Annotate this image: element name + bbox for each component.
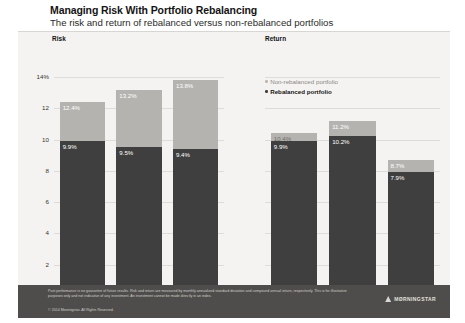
bar-value-label: 9.5% [119,149,133,156]
bar-group[interactable]: 10.4%9.9% [271,133,318,296]
panel-risk: Risk 02468101214%Jan 1970–Dec 201312.4%9… [18,32,232,318]
y-axis-tick-label: 8 [46,167,49,174]
legend-label-rebalanced: Rebalanced portfolio [270,88,332,96]
bar-value-label: 13.2% [119,92,136,99]
bar-segment-non-rebalanced[interactable]: 11.2% [329,121,376,137]
gridline [265,108,440,109]
bar-value-label: 8.7% [391,162,405,169]
legend: Non-rebalanced portfolio Rebalanced port… [265,77,415,97]
legend-swatch-icon [265,90,268,93]
panel-return: Return Jan 1970–Dec 201310.4%9.9%Jan 198… [232,32,450,318]
bar-segment-non-rebalanced[interactable]: 10.4% [271,133,318,141]
bar-value-label: 10.2% [332,138,349,145]
bar-value-label: 9.9% [274,143,288,150]
y-axis-tick-label: 14% [37,73,49,80]
figure-footer: Past performance is no guarantee of futu… [18,285,450,318]
bar-group[interactable]: 12.4%9.9% [60,102,105,296]
bar-segment-non-rebalanced[interactable]: 8.7% [388,160,435,173]
page-title: Managing Risk With Portfolio Rebalancing [50,4,450,16]
legend-label-non-rebalanced: Non-rebalanced portfolio [270,78,338,86]
y-axis-tick-label: 10 [42,136,49,143]
bar-segment-rebalanced[interactable]: 9.9% [60,141,105,296]
bar-value-label: 13.8% [176,82,193,89]
bar-value-label: 9.9% [63,143,77,150]
brand-mark-icon [385,296,391,302]
plot-area-risk: 02468101214%Jan 1970–Dec 201312.4%9.9%Ja… [54,77,224,296]
y-axis-tick-label: 2 [46,261,49,268]
bar-group[interactable]: 13.2%9.5% [116,90,161,296]
y-axis-tick-label: 6 [46,199,49,206]
morningstar-logo: MØRNINGSTAR [385,296,436,302]
bar-segment-rebalanced[interactable]: 9.4% [173,149,218,296]
bar-segment-rebalanced[interactable]: 7.9% [388,172,435,296]
bar-group[interactable]: 11.2%10.2% [329,121,376,296]
footnote-text: Past performance is no guarantee of futu… [48,289,353,299]
y-axis-tick-label: 4 [46,230,49,237]
figure-card: Risk 02468101214%Jan 1970–Dec 201312.4%9… [18,31,450,318]
brand-wordmark: MØRNINGSTAR [394,296,436,302]
bar-segment-non-rebalanced[interactable]: 13.8% [173,80,218,149]
y-axis-tick-label: 12 [42,105,49,112]
bar-segment-rebalanced[interactable]: 9.9% [271,141,318,296]
legend-item-rebalanced: Rebalanced portfolio [265,87,415,96]
bar-segment-non-rebalanced[interactable]: 13.2% [116,90,161,148]
panel-heading-return: Return [265,35,286,42]
copyright-text: © 2014 Morningstar. All Rights Reserved. [48,308,114,313]
bar-segment-rebalanced[interactable]: 10.2% [329,136,376,296]
bar-value-label: 7.9% [391,174,405,181]
legend-item-non-rebalanced: Non-rebalanced portfolio [265,77,415,86]
heading-block: Managing Risk With Portfolio Rebalancing… [50,4,450,29]
bar-value-label: 9.4% [176,151,190,158]
plot-area-return: Jan 1970–Dec 201310.4%9.9%Jan 1980–Dec 2… [265,77,440,296]
legend-swatch-icon [265,80,268,83]
bar-segment-non-rebalanced[interactable]: 12.4% [60,102,105,141]
gridline [54,77,224,78]
bar-group[interactable]: 8.7%7.9% [388,160,435,296]
bar-segment-rebalanced[interactable]: 9.5% [116,147,161,296]
bar-group[interactable]: 13.8%9.4% [173,80,218,296]
bar-value-label: 11.2% [332,123,349,130]
page-subtitle: The risk and return of rebalanced versus… [50,17,450,29]
panel-heading-risk: Risk [52,35,66,42]
bar-value-label: 12.4% [63,104,80,111]
